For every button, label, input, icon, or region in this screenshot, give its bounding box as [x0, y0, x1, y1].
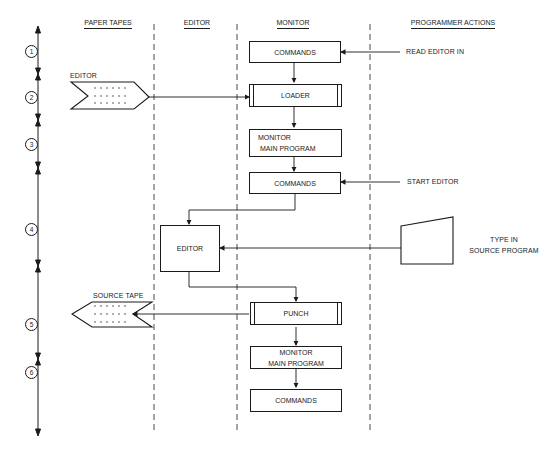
editor-tape-shape — [71, 82, 149, 109]
commands-to-editor-connector — [189, 194, 295, 224]
step-5-marker: 5 — [25, 318, 38, 331]
column-header-paper-tapes: PAPER TAPES — [68, 19, 148, 29]
diagram-lines — [0, 0, 546, 452]
punch-box: PUNCH — [250, 302, 342, 325]
column-header-monitor: MONITOR — [268, 19, 318, 29]
editor-box: EDITOR — [160, 225, 220, 272]
action-type-in-line2: SOURCE PROGRAM — [459, 247, 546, 254]
step-6-marker: 6 — [25, 366, 38, 379]
commands-box-3: COMMANDS — [250, 389, 342, 412]
action-start-editor: START EDITOR — [407, 178, 459, 185]
column-header-editor: EDITOR — [172, 19, 222, 29]
action-type-in-line1: TYPE IN — [459, 236, 546, 243]
editor-to-punch-connector — [189, 272, 296, 301]
source-tape-label: SOURCE TAPE — [93, 292, 144, 299]
step-2-marker: 2 — [25, 91, 38, 104]
editor-tape-label: EDITOR — [70, 72, 97, 79]
keyboard-shape — [401, 217, 453, 264]
step-3-marker: 3 — [25, 138, 38, 151]
action-read-editor-in: READ EDITOR IN — [406, 48, 464, 55]
column-header-programmer-actions: PROGRAMMER ACTIONS — [393, 19, 513, 29]
commands-box-1: COMMANDS — [249, 41, 341, 63]
step-4-marker: 4 — [25, 223, 38, 236]
source-tape-shape — [72, 302, 152, 327]
monitor-main-program-box-1: MONITORMAIN PROGRAM — [249, 129, 342, 157]
commands-box-2: COMMANDS — [249, 172, 341, 194]
monitor-main-program-box-2: MONITORMAIN PROGRAM — [250, 346, 342, 369]
loader-box: LOADER — [249, 84, 342, 107]
step-1-marker: 1 — [25, 45, 38, 58]
